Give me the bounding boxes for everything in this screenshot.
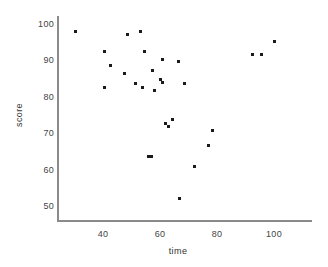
data-point	[193, 165, 196, 168]
y-tick-label: 50	[28, 201, 54, 211]
data-point	[260, 53, 263, 56]
x-axis-line	[57, 220, 312, 222]
data-point	[251, 53, 254, 56]
data-point	[177, 60, 180, 63]
data-point	[161, 58, 164, 61]
y-tick-label: 60	[28, 165, 54, 175]
x-tick-label: 100	[259, 229, 289, 239]
data-point	[139, 30, 142, 33]
data-point	[151, 69, 154, 72]
data-point	[143, 50, 146, 53]
data-point	[141, 86, 144, 89]
data-point	[150, 155, 153, 158]
data-point	[167, 125, 170, 128]
x-axis-title: time	[163, 246, 193, 256]
data-point	[178, 197, 181, 200]
data-point	[103, 50, 106, 53]
data-point	[134, 82, 137, 85]
x-tick-label: 40	[88, 229, 118, 239]
y-tick-label: 80	[28, 92, 54, 102]
y-axis-title: score	[14, 95, 24, 135]
y-tick-label: 90	[28, 55, 54, 65]
x-tick-label: 60	[145, 229, 175, 239]
data-point	[273, 40, 276, 43]
data-point	[161, 81, 164, 84]
data-point	[207, 144, 210, 147]
y-tick-label: 100	[28, 19, 54, 29]
data-point	[103, 86, 106, 89]
plot-area: 1009080706050 406080100 time score	[0, 0, 328, 267]
data-point	[109, 64, 112, 67]
y-tick-label: 70	[28, 128, 54, 138]
data-point	[183, 82, 186, 85]
data-point	[123, 72, 126, 75]
data-point	[153, 89, 156, 92]
data-point	[164, 122, 167, 125]
data-point	[211, 129, 214, 132]
data-point	[171, 118, 174, 121]
y-axis-line	[57, 16, 59, 221]
data-point	[126, 33, 129, 36]
data-point	[74, 30, 77, 33]
x-tick-label: 80	[202, 229, 232, 239]
scatter-plot-figure: 1009080706050 406080100 time score	[0, 0, 328, 267]
